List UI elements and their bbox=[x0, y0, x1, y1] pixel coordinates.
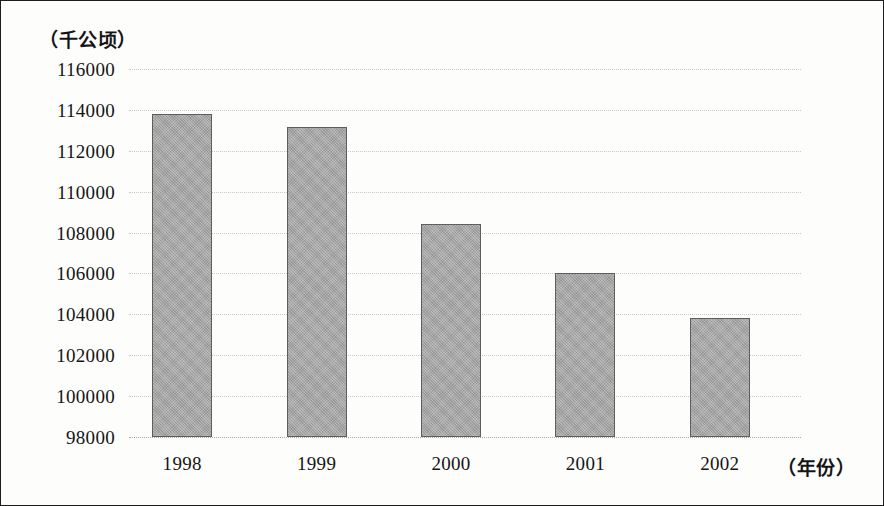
bar-2002 bbox=[690, 318, 750, 437]
x-axis-tick-label: 1998 bbox=[163, 453, 202, 475]
bar-2000 bbox=[421, 224, 481, 437]
x-axis-name-label: （年份） bbox=[777, 453, 855, 480]
x-axis-tick-label: 1999 bbox=[297, 453, 336, 475]
bar-group: 1998 bbox=[152, 69, 212, 437]
gridline: 98000 bbox=[129, 437, 801, 438]
y-axis-tick-label: 106000 bbox=[56, 263, 115, 285]
x-axis-tick-label: 2002 bbox=[700, 453, 739, 475]
y-axis-tick-label: 116000 bbox=[57, 59, 115, 81]
y-axis-tick-label: 108000 bbox=[56, 223, 115, 245]
y-axis-tick-label: 104000 bbox=[56, 304, 115, 326]
chart-figure: （千公顷） 1160001140001120001100001080001060… bbox=[0, 0, 884, 506]
bar-1998 bbox=[152, 114, 212, 437]
y-axis-tick-label: 112000 bbox=[57, 141, 115, 163]
y-axis-tick-label: 102000 bbox=[56, 345, 115, 367]
y-axis-tick-label: 98000 bbox=[66, 427, 115, 449]
y-axis-tick-label: 114000 bbox=[57, 100, 115, 122]
bar-group: 2000 bbox=[421, 69, 481, 437]
y-axis-tick-label: 100000 bbox=[56, 386, 115, 408]
bar-group: 2001 bbox=[555, 69, 615, 437]
plot-area: 1160001140001120001100001080001060001040… bbox=[129, 69, 801, 437]
bar-group: 2002 bbox=[690, 69, 750, 437]
bar-1999 bbox=[287, 127, 347, 437]
x-axis-tick-label: 2001 bbox=[566, 453, 605, 475]
x-axis-tick-label: 2000 bbox=[431, 453, 470, 475]
bar-group: 1999 bbox=[287, 69, 347, 437]
bars-group: 19981999200020012002 bbox=[129, 69, 801, 437]
y-axis-tick-label: 110000 bbox=[57, 182, 115, 204]
bar-2001 bbox=[555, 273, 615, 437]
y-axis-unit-label: （千公顷） bbox=[39, 25, 137, 52]
